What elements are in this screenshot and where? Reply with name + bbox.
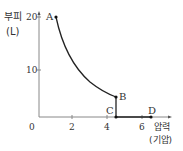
y-axis-label-line2: (L) xyxy=(6,27,19,37)
y-axis-label-line1: 부피 xyxy=(4,12,22,22)
point-d-label: D xyxy=(148,106,156,116)
x-tick-label-4: 4 xyxy=(104,122,110,132)
point-b-marker xyxy=(114,95,117,98)
origin-label: 0 xyxy=(29,122,35,132)
y-axis-arrow-icon xyxy=(38,11,41,15)
x-tick-label-6: 6 xyxy=(139,122,145,132)
x-tick-label-2: 2 xyxy=(69,122,75,132)
x-axis-arrow-icon xyxy=(168,116,172,119)
point-a-marker xyxy=(54,15,57,18)
point-b-label: B xyxy=(119,92,126,102)
x-axis-label-line1: 압력 xyxy=(154,122,170,132)
y-tick-label-10: 10 xyxy=(26,65,37,75)
point-a-label: A xyxy=(46,12,53,22)
point-c-marker xyxy=(114,115,117,118)
y-tick-label-20: 20 xyxy=(26,12,37,22)
curve-a-to-b xyxy=(56,17,116,97)
x-axis-label-line2: (기압) xyxy=(149,135,172,145)
point-c-label: C xyxy=(106,106,114,116)
